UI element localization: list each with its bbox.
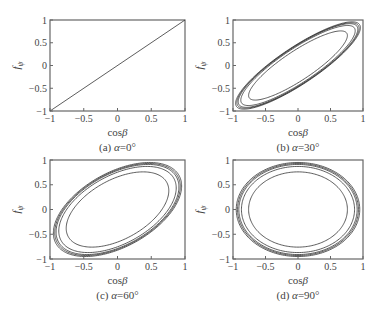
y-tick-label: −1 [36, 106, 47, 117]
x-tick-label: −0.5 [256, 113, 274, 124]
y-tick-label: 1 [42, 15, 47, 26]
x-tick-label: 0.5 [145, 113, 158, 124]
y-tick-label: 0.5 [218, 179, 231, 190]
x-axis-label: cosβ [107, 274, 128, 286]
panel-caption: (c) α=60° [96, 289, 138, 302]
y-axis-label: fψ [10, 204, 25, 213]
panel-caption: (a) α=0° [99, 141, 136, 154]
plot-frame-b [233, 20, 363, 111]
y-tick-label: 1 [225, 155, 230, 166]
x-axis-label: cosβ [107, 126, 128, 138]
y-tick-label: −0.5 [29, 83, 47, 94]
y-tick-label: −0.5 [212, 83, 230, 94]
panel-caption: (d) α=90° [277, 289, 320, 302]
x-tick-label: 0 [115, 113, 120, 124]
y-tick-label: 0.5 [35, 37, 48, 48]
y-tick-label: 0 [225, 204, 230, 215]
x-tick-label: 1 [361, 113, 366, 124]
panel-caption: (b) α=30° [277, 141, 320, 154]
y-tick-label: 0.5 [35, 179, 48, 190]
y-tick-label: −1 [219, 106, 230, 117]
x-tick-label: 0 [296, 261, 301, 272]
y-axis-label: fψ [10, 60, 25, 69]
y-tick-label: −0.5 [29, 229, 47, 240]
y-tick-label: 0 [225, 60, 230, 71]
x-tick-label: 0.5 [324, 113, 337, 124]
y-tick-label: 1 [42, 155, 47, 166]
x-tick-label: −0.5 [75, 261, 93, 272]
x-tick-label: −0.5 [256, 261, 274, 272]
y-tick-label: 0.5 [218, 37, 231, 48]
y-tick-label: −1 [36, 254, 47, 265]
y-tick-label: 1 [225, 15, 230, 26]
y-axis-label: fψ [193, 60, 208, 69]
plot-frame-c [50, 160, 185, 259]
x-tick-label: 0.5 [324, 261, 337, 272]
x-tick-label: 1 [361, 261, 366, 272]
x-axis-label: cosβ [288, 126, 309, 138]
x-tick-label: 1 [183, 113, 188, 124]
x-tick-label: 0 [115, 261, 120, 272]
x-tick-label: −0.5 [75, 113, 93, 124]
y-tick-label: 0 [42, 60, 47, 71]
figure: −1−0.500.51−1−0.500.51cosβfψ(a) α=0°−1−0… [0, 0, 381, 314]
y-tick-label: 0 [42, 204, 47, 215]
y-tick-label: −0.5 [212, 229, 230, 240]
x-tick-label: 1 [183, 261, 188, 272]
x-tick-label: 0 [296, 113, 301, 124]
y-tick-label: −1 [219, 254, 230, 265]
x-tick-label: 0.5 [145, 261, 158, 272]
y-axis-label: fψ [193, 204, 208, 213]
plot-frame-d [233, 160, 363, 259]
x-axis-label: cosβ [288, 274, 309, 286]
